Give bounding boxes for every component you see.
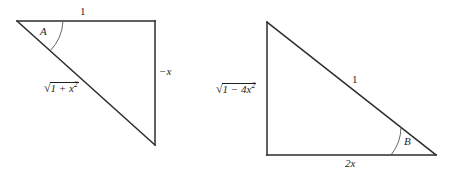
- left-triangle-hypotenuse-label: √1 + x2: [44, 82, 79, 94]
- right-triangle-hypotenuse-label: 1: [352, 74, 358, 85]
- right-triangle-angle-label: B: [404, 136, 411, 147]
- left-triangle-hypotenuse-exponent: 2: [74, 80, 78, 89]
- right-triangle-angle-arc: [391, 127, 401, 155]
- right-triangle-vertical-exponent: 2: [251, 81, 255, 90]
- right-triangle-vertical-side-label: √1 − 4x2: [216, 83, 256, 95]
- right-triangle-vertical-radicand: 1 − 4x: [223, 83, 252, 95]
- left-triangle-vertical-side-label: −x: [159, 66, 171, 77]
- left-triangle-group: [17, 21, 155, 145]
- left-triangle-angle-arc: [50, 21, 63, 51]
- left-triangle-hypotenuse: [17, 21, 155, 145]
- left-triangle-angle-label: A: [40, 26, 47, 37]
- right-triangle-base-side-label: 2x: [345, 158, 355, 169]
- left-triangle-top-side-label: 1: [80, 6, 86, 17]
- left-triangle-hypotenuse-radicand: 1 + x: [51, 82, 74, 94]
